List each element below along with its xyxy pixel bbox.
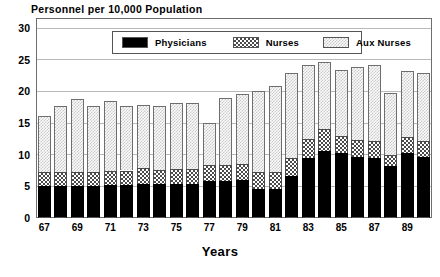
legend-label-physicians: Physicians bbox=[155, 37, 207, 48]
legend-swatch-aux-nurses bbox=[323, 37, 349, 48]
x-axis-tick-label: 83 bbox=[303, 222, 314, 233]
legend-item-nurses: Nurses bbox=[233, 37, 299, 48]
x-axis-tick-label: 73 bbox=[138, 222, 149, 233]
x-axis-tick-label: 85 bbox=[336, 222, 347, 233]
chart-legend: Physicians Nurses Aux Nurses bbox=[112, 31, 362, 54]
legend-label-aux-nurses: Aux Nurses bbox=[356, 37, 411, 48]
x-axis-tick-label: 89 bbox=[402, 222, 413, 233]
x-axis-tick-label: 87 bbox=[369, 222, 380, 233]
x-axis-tick-label: 67 bbox=[39, 222, 50, 233]
x-axis-tick-label: 81 bbox=[270, 222, 281, 233]
x-axis-tick-label: 69 bbox=[72, 222, 83, 233]
legend-label-nurses: Nurses bbox=[266, 37, 299, 48]
x-axis-tick-label: 77 bbox=[204, 222, 215, 233]
x-axis-tick-label: 71 bbox=[105, 222, 116, 233]
legend-item-aux-nurses: Aux Nurses bbox=[323, 37, 411, 48]
x-axis-tick-label: 75 bbox=[171, 222, 182, 233]
x-axis-title: Years bbox=[0, 244, 440, 259]
stacked-bar-chart: Personnel per 10,000 Population 05101520… bbox=[0, 0, 440, 277]
legend-item-physicians: Physicians bbox=[122, 37, 207, 48]
legend-swatch-physicians bbox=[122, 37, 148, 48]
x-axis-tick-label: 79 bbox=[237, 222, 248, 233]
legend-swatch-nurses bbox=[233, 37, 259, 48]
